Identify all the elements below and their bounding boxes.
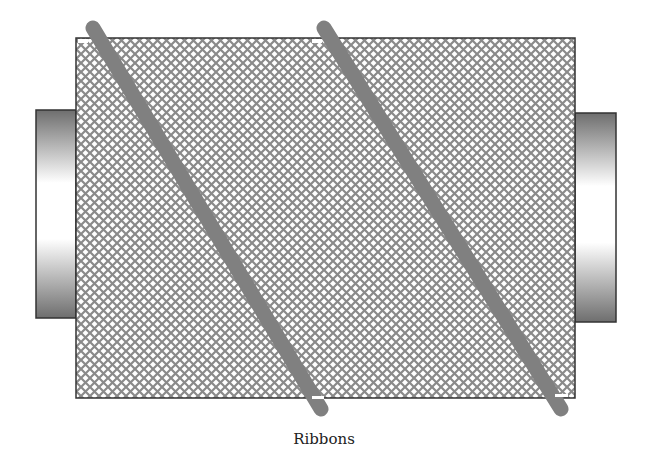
ribbon-cylinder-diagram bbox=[0, 0, 648, 473]
figure-caption: Ribbons bbox=[0, 430, 648, 448]
cylinder-mesh-body bbox=[76, 38, 575, 398]
left-end-cap bbox=[36, 110, 76, 318]
right-end-cap bbox=[575, 113, 616, 322]
